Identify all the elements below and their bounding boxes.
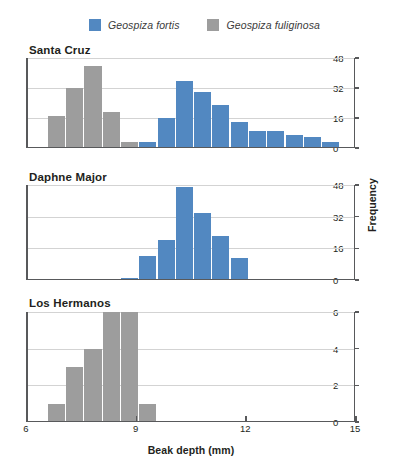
y-axis-left-spine bbox=[26, 185, 28, 280]
plot-area-los-hermanos bbox=[26, 312, 355, 422]
y-axis-right-spine bbox=[354, 185, 356, 280]
y-tick-mark bbox=[355, 385, 359, 387]
panel-title-santa-cruz: Santa Cruz bbox=[29, 44, 91, 56]
legend: Geospiza fortisGeospiza fuliginosa bbox=[0, 19, 409, 31]
x-tick-label: 6 bbox=[23, 423, 28, 434]
y-axis-right-spine bbox=[354, 58, 356, 148]
y-tick-mark bbox=[355, 117, 359, 119]
x-tick-mark bbox=[26, 416, 28, 421]
legend-swatch-fuliginosa bbox=[207, 19, 219, 31]
bar bbox=[194, 213, 211, 280]
plot-area-daphne-major bbox=[26, 185, 355, 280]
beak-depth-histogram-figure: Geospiza fortisGeospiza fuliginosa Santa… bbox=[0, 0, 409, 469]
legend-entry-fuliginosa: Geospiza fuliginosa bbox=[207, 19, 320, 31]
x-tick-label: 9 bbox=[133, 423, 138, 434]
bar bbox=[66, 367, 83, 422]
y-tick-mark bbox=[355, 87, 359, 89]
bars-los-hermanos bbox=[26, 312, 355, 422]
bars-santa-cruz bbox=[26, 58, 355, 148]
x-tick-mark bbox=[136, 416, 138, 421]
y-tick-mark bbox=[355, 311, 359, 313]
bar bbox=[66, 88, 83, 148]
legend-swatch-fortis bbox=[89, 19, 101, 31]
bar bbox=[48, 404, 65, 422]
x-axis-title: Beak depth (mm) bbox=[0, 444, 382, 456]
legend-label-fortis: Geospiza fortis bbox=[108, 19, 180, 31]
bars-daphne-major bbox=[26, 185, 355, 280]
x-tick-label: 12 bbox=[240, 423, 251, 434]
bar bbox=[194, 92, 211, 148]
x-axis: 691215 bbox=[26, 421, 355, 439]
panel-title-daphne-major: Daphne Major bbox=[29, 171, 107, 183]
y-tick-mark bbox=[355, 57, 359, 59]
bar bbox=[231, 122, 248, 148]
y-axis-left-spine bbox=[26, 58, 28, 148]
legend-label-fuliginosa: Geospiza fuliginosa bbox=[226, 19, 320, 31]
y-tick-mark bbox=[355, 147, 359, 149]
bar bbox=[249, 131, 266, 148]
bar bbox=[48, 116, 65, 148]
bar bbox=[103, 312, 120, 422]
bar bbox=[121, 312, 138, 422]
bar bbox=[231, 258, 248, 280]
bar bbox=[212, 105, 229, 148]
y-axis-title: Frequency bbox=[366, 178, 378, 232]
panel-title-los-hermanos: Los Hermanos bbox=[29, 297, 111, 309]
bar bbox=[103, 112, 120, 148]
y-tick-mark bbox=[355, 279, 359, 281]
y-tick-mark bbox=[355, 248, 359, 250]
y-tick-mark bbox=[355, 348, 359, 350]
x-tick-mark bbox=[245, 416, 247, 421]
y-tick-mark bbox=[355, 184, 359, 186]
bar bbox=[139, 404, 156, 422]
x-tick-mark bbox=[355, 416, 357, 421]
y-axis-left-spine bbox=[26, 312, 28, 422]
bar bbox=[158, 240, 175, 280]
bar bbox=[84, 349, 101, 422]
bar bbox=[158, 118, 175, 148]
bar bbox=[176, 81, 193, 149]
y-tick-mark bbox=[355, 216, 359, 218]
legend-entry-fortis: Geospiza fortis bbox=[89, 19, 180, 31]
bar bbox=[84, 66, 101, 149]
bar bbox=[176, 187, 193, 280]
x-tick-label: 15 bbox=[350, 423, 361, 434]
plot-area-santa-cruz bbox=[26, 58, 355, 148]
bar bbox=[139, 256, 156, 280]
bar bbox=[212, 236, 229, 280]
x-axis-spine bbox=[26, 279, 355, 281]
y-axis-right-spine bbox=[354, 312, 356, 422]
bar bbox=[267, 131, 284, 148]
x-axis-spine bbox=[26, 147, 355, 149]
